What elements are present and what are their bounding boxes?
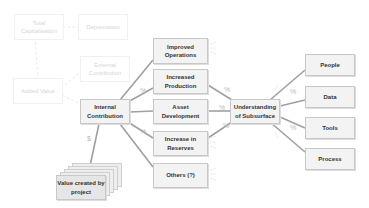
- connector-faded: [62, 95, 80, 104]
- connector-faded: [35, 37, 38, 78]
- node-internal-contribution: Internal Contribution: [80, 99, 130, 124]
- connector-internal-others: [120, 124, 153, 167]
- connector-internal-asset: [130, 111, 153, 112]
- edge-label-dollar: $: [87, 135, 91, 142]
- node-added-value: Added Value: [13, 78, 63, 104]
- node-increase-in-reserves: Increase in Reserves: [153, 131, 208, 156]
- node-process: Process: [305, 148, 355, 170]
- edge-label-percent: %: [219, 104, 225, 111]
- edge-label-percent: %: [140, 128, 146, 135]
- node-tools: Tools: [305, 117, 355, 139]
- edge-label-percent: %: [290, 124, 296, 131]
- connector-internal-value: [90, 124, 99, 166]
- node-improved-operations: Improved Operations: [153, 38, 208, 64]
- connector-faded: [65, 72, 80, 85]
- edge-label-percent: %: [290, 88, 296, 95]
- node-total-capitalisation: Total Capitalisation: [14, 14, 64, 40]
- connector-understanding-people: [270, 70, 305, 100]
- node-people: People: [305, 54, 355, 76]
- edge-label-percent: %: [223, 122, 229, 129]
- node-understanding-subsurface: Understanding of Subsurface: [230, 99, 280, 124]
- node-depreciation: Depreciation: [78, 14, 128, 40]
- node-value-created: Value created by project: [56, 175, 106, 200]
- node-external-contribution: External Contribution: [80, 56, 130, 82]
- node-others: Others (?): [153, 163, 208, 188]
- connector-understanding-data: [280, 100, 305, 106]
- node-increased-production: Increased Production: [153, 69, 208, 94]
- node-data: Data: [305, 86, 355, 108]
- node-asset-development: Asset Development: [153, 99, 208, 124]
- edge-label-percent: %: [140, 87, 146, 94]
- edge-label-percent: %: [224, 86, 230, 93]
